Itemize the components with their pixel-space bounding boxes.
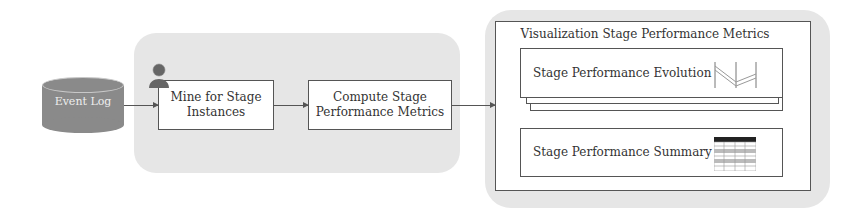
arrow-mine-to-compute (274, 105, 308, 106)
summary-label: Stage Performance Summary (533, 145, 712, 160)
arrow-eventlog-to-mine (124, 105, 158, 106)
evolution-label: Stage Performance Evolution (533, 66, 711, 81)
line-chart-icon (713, 62, 759, 90)
user-icon (148, 62, 170, 90)
table-icon (714, 137, 756, 171)
mine-stage-instances-box[interactable]: Mine for Stage Instances (158, 80, 274, 130)
compute-metrics-box[interactable]: Compute Stage Performance Metrics (308, 80, 452, 130)
visualization-title: Visualization Stage Performance Metrics (495, 27, 795, 41)
event-log-database[interactable]: Event Log (42, 77, 124, 133)
event-log-label: Event Log (42, 95, 124, 108)
arrow-compute-to-viz (452, 105, 495, 106)
